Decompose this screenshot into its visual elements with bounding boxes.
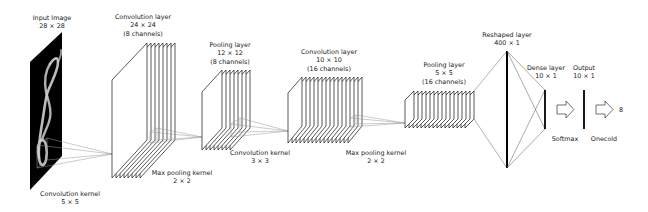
pool2-label-title: Pooling layer	[423, 61, 465, 69]
output-label-size: 10 × 1	[573, 72, 595, 80]
pool1-label-title: Pooling layer	[209, 41, 251, 49]
kernel1-label-size: 5 × 5	[61, 198, 79, 206]
reshape-connections	[474, 51, 507, 168]
conv2-label-channels: (16 channels)	[307, 65, 351, 73]
onecold-arrow-icon	[596, 101, 613, 118]
conv2-label-title: Convolution layer	[301, 48, 358, 56]
conv2-stack	[288, 77, 362, 143]
pool1-label-channels: (8 channels)	[210, 58, 250, 66]
maxpool1-label-title: Max pooling kernel	[152, 169, 213, 177]
dense-label-size: 10 × 1	[535, 72, 557, 80]
cnn-diagram: Input Image 28 × 28 Convolution layer 24…	[0, 0, 648, 212]
maxpool2-label-title: Max pooling kernel	[346, 149, 407, 157]
maxpool1-label-size: 2 × 2	[173, 177, 191, 185]
prediction-value: 8	[619, 106, 623, 114]
kernel2-label-title: Convolution kernel	[230, 149, 290, 157]
conv1-label-size: 24 × 24	[130, 21, 156, 29]
pool2-label-channels: (16 channels)	[422, 78, 466, 86]
pool1-label-size: 12 × 12	[217, 49, 243, 57]
reshaped-label-title: Reshaped layer	[482, 31, 532, 39]
pool1-stack	[202, 70, 250, 150]
conv2-label-size: 10 × 10	[316, 56, 342, 64]
pool2-stack	[405, 91, 474, 128]
input-label-title: Input Image	[33, 14, 72, 22]
dense-label-title: Dense layer	[527, 64, 566, 72]
input-label-size: 28 × 28	[39, 22, 65, 30]
maxpool2-label-size: 2 × 2	[367, 157, 385, 165]
softmax-label: Softmax	[552, 135, 579, 143]
output-label-title: Output	[573, 64, 596, 72]
conv1-label-channels: (8 channels)	[123, 30, 163, 38]
softmax-arrow-icon	[557, 101, 574, 118]
reshaped-label-size: 400 × 1	[494, 39, 520, 47]
conv1-label-title: Convolution layer	[115, 13, 172, 21]
conv1-stack	[112, 43, 175, 178]
kernel2-label-size: 3 × 3	[251, 157, 269, 165]
onecold-label: Onecold	[591, 135, 617, 143]
kernel1-label-title: Convolution kernel	[40, 190, 100, 198]
pool2-label-size: 5 × 5	[435, 69, 453, 77]
